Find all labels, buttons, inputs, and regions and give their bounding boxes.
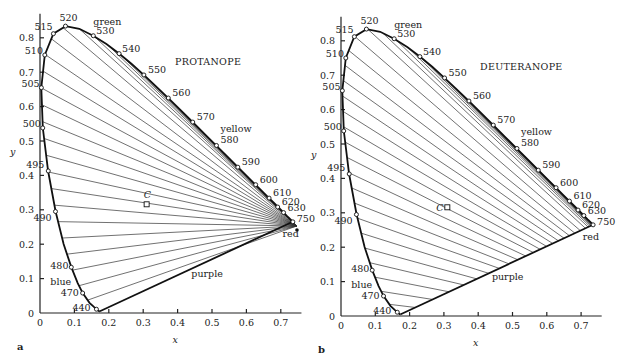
x-tick-label: 0.7 [574, 320, 589, 331]
y-tick-label: 0.7 [320, 70, 335, 81]
white-point-c [144, 202, 149, 207]
x-tick-label: 0.2 [101, 317, 116, 328]
purple-line [401, 225, 593, 315]
figure-canvas: 00.10.20.30.40.50.60.700.10.20.30.40.50.… [0, 0, 624, 364]
wavelength-label-440: 440 [373, 305, 391, 316]
wavelength-label-590: 590 [542, 159, 560, 170]
wavelength-marker-570 [191, 120, 195, 124]
x-axis-label: x [172, 334, 178, 345]
wavelength-label-505: 505 [322, 81, 340, 92]
label-yellow: yellow [220, 123, 252, 134]
y-tick-label: 0.1 [320, 276, 335, 287]
wavelength-marker-500 [41, 126, 45, 130]
wavelength-marker-570 [491, 123, 495, 127]
x-tick-label: 0.2 [402, 320, 417, 331]
y-tick-label: 0.3 [19, 204, 34, 215]
wavelength-label-630: 630 [588, 205, 606, 216]
label-blue: blue [50, 276, 71, 287]
wavelength-marker-480 [370, 268, 374, 272]
label-green: green [93, 16, 121, 27]
panel-protanope: 00.10.20.30.40.50.60.700.10.20.30.40.50.… [9, 12, 315, 352]
wavelength-marker-530 [91, 34, 95, 38]
wavelength-marker-550 [443, 76, 447, 80]
wavelength-label-570: 570 [197, 111, 215, 122]
wavelength-label-490: 490 [33, 212, 51, 223]
x-axis-label: x [473, 337, 479, 348]
label-purple: purple [492, 271, 524, 282]
y-tick-label: 0.2 [19, 239, 34, 250]
wavelength-marker-495 [46, 169, 50, 173]
white-point-label: C [144, 189, 152, 200]
wavelength-marker-510 [344, 56, 348, 60]
x-tick-label: 0.4 [471, 320, 486, 331]
wavelength-label-590: 590 [242, 156, 260, 167]
x-tick-label: 0.7 [273, 317, 288, 328]
wavelength-marker-470 [382, 294, 386, 298]
label-blue: blue [351, 279, 372, 290]
label-purple: purple [191, 268, 223, 279]
y-tick-label: 0.6 [320, 104, 335, 115]
wavelength-label-480: 480 [351, 263, 369, 274]
wavelength-label-470: 470 [61, 287, 79, 298]
wavelength-label-515: 515 [335, 24, 353, 35]
y-tick-label: 0 [28, 308, 34, 319]
wavelength-marker-440 [94, 307, 98, 311]
wavelength-label-490: 490 [334, 215, 352, 226]
wavelength-label-480: 480 [50, 260, 68, 271]
wavelength-marker-600 [554, 186, 558, 190]
y-tick-label: 0.3 [320, 207, 335, 218]
x-tick-label: 0.3 [436, 320, 451, 331]
wavelength-marker-560 [166, 96, 170, 100]
label-green: green [394, 19, 422, 30]
label-yellow: yellow [520, 126, 552, 137]
x-tick-label: 0.6 [239, 317, 254, 328]
wavelength-marker-580 [214, 143, 218, 147]
wavelength-label-600: 600 [260, 174, 278, 185]
x-tick-label: 0.1 [368, 320, 383, 331]
wavelength-marker-630 [282, 211, 286, 215]
wavelength-marker-750 [591, 223, 595, 227]
panel-letter: b [318, 344, 325, 355]
wavelength-label-540: 540 [122, 43, 140, 54]
wavelength-marker-630 [582, 214, 586, 218]
wavelength-label-600: 600 [560, 177, 578, 188]
wavelength-marker-580 [515, 146, 519, 150]
y-tick-label: 0.7 [19, 67, 34, 78]
wavelength-label-510: 510 [326, 48, 344, 59]
x-tick-label: 0.6 [539, 320, 554, 331]
wavelength-label-505: 505 [21, 78, 39, 89]
copunctal-point [295, 228, 299, 232]
y-tick-label: 0.6 [19, 101, 34, 112]
x-tick-label: 0.5 [505, 320, 520, 331]
x-tick-label: 0.4 [170, 317, 185, 328]
wavelength-marker-500 [342, 129, 346, 133]
y-tick-label: 0.5 [19, 136, 34, 147]
wavelength-label-500: 500 [23, 118, 41, 129]
wavelength-label-515: 515 [34, 21, 52, 32]
y-axis-label: y [9, 146, 16, 157]
wavelength-label-630: 630 [288, 202, 306, 213]
wavelength-label-550: 550 [449, 67, 467, 78]
wavelength-label-470: 470 [362, 290, 380, 301]
y-tick-label: 0.4 [19, 170, 34, 181]
wavelength-marker-590 [236, 165, 240, 169]
y-tick-label: 0.2 [320, 242, 335, 253]
wavelength-label-495: 495 [26, 159, 44, 170]
wavelength-marker-540 [117, 52, 121, 56]
wavelength-label-570: 570 [497, 114, 515, 125]
purple-line [100, 222, 293, 312]
wavelength-label-520: 520 [59, 12, 77, 23]
wavelength-label-520: 520 [360, 15, 378, 26]
wavelength-marker-510 [43, 53, 47, 57]
panel-title: PROTANOPE [175, 56, 241, 67]
wavelength-marker-620 [576, 208, 580, 212]
wavelength-marker-520 [63, 24, 67, 28]
wavelength-marker-540 [418, 55, 422, 59]
wavelength-marker-505 [340, 89, 344, 93]
white-point-c [445, 205, 450, 210]
y-tick-label: 0.8 [19, 32, 34, 43]
x-tick-label: 0.5 [204, 317, 219, 328]
panel-title: DEUTERANOPE [480, 61, 563, 72]
x-tick-label: 0.3 [136, 317, 151, 328]
wavelength-marker-490 [53, 210, 57, 214]
